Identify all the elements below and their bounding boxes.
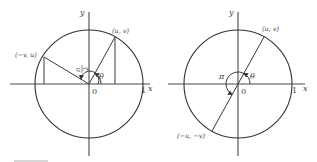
point-neg-v-u-label: (−v, u) (15, 51, 37, 59)
unit-label: 1 (292, 86, 297, 95)
x-axis-label: x (148, 84, 153, 93)
svg-text:2: 2 (82, 67, 90, 71)
point-neg-u-neg-v-label: (−u, −v) (177, 132, 205, 140)
theta-label: θ (250, 72, 255, 81)
theta-label: θ (99, 72, 104, 81)
unit-circle-rotation-diagrams: y x 0 1 (u, v) (−v, u) θ π 2 y x 0 1 (u,… (0, 0, 317, 162)
x-axis-label: x (303, 84, 308, 93)
point-uv-label: (u, v) (262, 25, 280, 33)
right-figure: y x 0 1 (u, v) (−u, −v) θ π (168, 8, 308, 156)
y-axis-label: y (228, 8, 234, 17)
origin-label: 0 (241, 87, 246, 96)
half-pi-label: π 2 (74, 65, 90, 73)
svg-text:π: π (74, 67, 82, 73)
point-uv-label: (u, v) (112, 27, 130, 35)
y-axis-label: y (79, 8, 85, 17)
pi-label: π (218, 72, 225, 81)
origin-label: 0 (92, 87, 97, 96)
left-figure: y x 0 1 (u, v) (−v, u) θ π 2 (10, 8, 153, 156)
unit-label: 1 (141, 86, 146, 95)
